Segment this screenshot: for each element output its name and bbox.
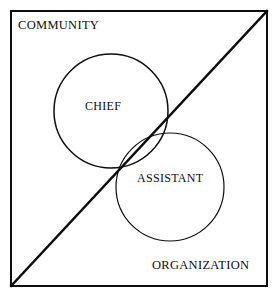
circle-assistant [116,133,224,241]
circle-label-assistant: ASSISTANT [137,172,203,184]
region-label-organization: ORGANIZATION [152,259,249,272]
diagram-canvas [0,0,275,297]
circle-label-chief: CHIEF [85,100,121,112]
venn-diagram: COMMUNITY ORGANIZATION CHIEF ASSISTANT [0,0,275,297]
region-label-community: COMMUNITY [18,19,99,32]
diagonal-divider-line [11,11,267,286]
